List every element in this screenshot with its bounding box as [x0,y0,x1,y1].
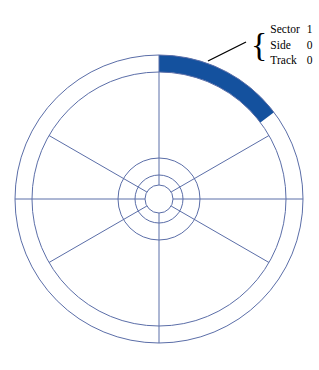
callout-leader-line [208,42,246,61]
spoke-240 [49,206,147,263]
callout-row: { Sector 1 [250,22,313,38]
brace-icon: { [250,22,269,69]
callout-key-track: Track [269,53,305,69]
figure-canvas: { Sector 1 Side 0 Track 0 [0,0,319,370]
spoke-300 [49,136,147,193]
spoke-60 [171,136,269,193]
spoke-120 [171,206,269,263]
callout-key-sector: Sector [269,22,305,38]
track-circle-4 [145,185,173,213]
callout-value-track: 0 [306,53,314,69]
callout-value-side: 0 [306,38,314,54]
callout-value-sector: 1 [306,22,314,38]
callout-key-side: Side [269,38,305,54]
callout-table: { Sector 1 Side 0 Track 0 [250,22,313,69]
sector-callout: { Sector 1 Side 0 Track 0 [250,22,313,69]
